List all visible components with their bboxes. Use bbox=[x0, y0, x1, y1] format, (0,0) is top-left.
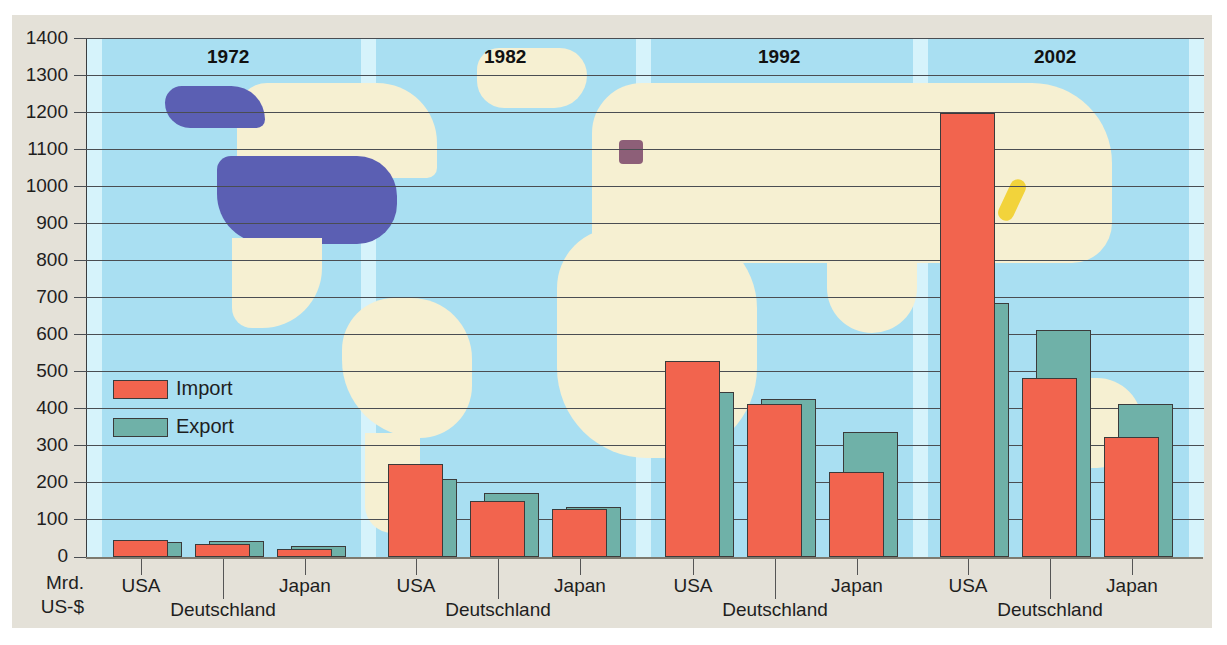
x-tick bbox=[857, 559, 858, 575]
bar-import-1982-japan bbox=[552, 509, 607, 557]
y-axis-unit-line1: Mrd. bbox=[22, 572, 84, 594]
y-tick-label: 700 bbox=[10, 287, 68, 307]
y-tick-label: 1200 bbox=[10, 102, 68, 122]
x-label-deutschland: Deutschland bbox=[445, 599, 551, 621]
x-label-japan: Japan bbox=[554, 575, 606, 597]
y-tick-label: 900 bbox=[10, 213, 68, 233]
legend-import-swatch bbox=[113, 380, 168, 399]
x-label-japan: Japan bbox=[279, 575, 331, 597]
gridline-700 bbox=[74, 297, 1204, 298]
highlight-usa bbox=[217, 156, 397, 244]
y-tick-label: 100 bbox=[10, 509, 68, 529]
y-tick-label: 1000 bbox=[10, 176, 68, 196]
legend-export-swatch bbox=[113, 418, 168, 437]
year-header-1992: 1992 bbox=[758, 46, 800, 68]
x-tick bbox=[223, 559, 224, 599]
bar-import-1992-deutschland bbox=[747, 404, 802, 557]
bar-import-1992-usa bbox=[665, 361, 720, 557]
bar-import-1982-usa bbox=[388, 464, 443, 557]
x-tick bbox=[580, 559, 581, 575]
x-label-deutschland: Deutschland bbox=[722, 599, 828, 621]
bar-import-1972-japan bbox=[277, 549, 332, 557]
highlight-alaska bbox=[165, 86, 265, 128]
gridline-500 bbox=[74, 371, 1204, 372]
y-tick-label: 400 bbox=[10, 398, 68, 418]
gridline-900 bbox=[74, 223, 1204, 224]
y-tick-label: 0 bbox=[10, 546, 68, 566]
legend-export-label: Export bbox=[176, 415, 234, 438]
gridline-800 bbox=[74, 260, 1204, 261]
x-label-deutschland: Deutschland bbox=[170, 599, 276, 621]
y-tick-label: 1400 bbox=[10, 28, 68, 48]
x-label-usa: USA bbox=[673, 575, 712, 597]
year-header-2002: 2002 bbox=[1034, 46, 1076, 68]
bar-import-1982-deutschland bbox=[470, 501, 525, 557]
y-tick-0 bbox=[74, 557, 86, 558]
gridline-1000 bbox=[74, 186, 1204, 187]
highlight-germany bbox=[619, 140, 643, 164]
x-label-usa: USA bbox=[948, 575, 987, 597]
x-tick bbox=[693, 559, 694, 575]
bar-import-2002-usa bbox=[940, 113, 995, 557]
land-india bbox=[827, 253, 917, 333]
legend-import-label: Import bbox=[176, 377, 233, 400]
y-tick-label: 300 bbox=[10, 435, 68, 455]
x-label-deutschland: Deutschland bbox=[997, 599, 1103, 621]
bar-import-1972-deutschland bbox=[195, 544, 250, 557]
bar-import-1992-japan bbox=[829, 472, 884, 557]
x-tick bbox=[305, 559, 306, 575]
gridline-1200 bbox=[74, 112, 1204, 113]
y-tick-label: 600 bbox=[10, 324, 68, 344]
x-tick bbox=[141, 559, 142, 575]
year-header-1972: 1972 bbox=[207, 46, 249, 68]
y-tick-label: 1300 bbox=[10, 65, 68, 85]
gridline-1100 bbox=[74, 149, 1204, 150]
x-label-usa: USA bbox=[396, 575, 435, 597]
bar-import-2002-deutschland bbox=[1022, 378, 1077, 557]
gridline-600 bbox=[74, 334, 1204, 335]
x-tick bbox=[416, 559, 417, 575]
land-central-america bbox=[232, 238, 322, 328]
bar-import-1972-usa bbox=[113, 540, 168, 557]
y-tick-label: 1100 bbox=[10, 139, 68, 159]
y-axis-unit-line2: US-$ bbox=[22, 596, 84, 618]
x-label-japan: Japan bbox=[1106, 575, 1158, 597]
bar-import-2002-japan bbox=[1104, 437, 1159, 557]
x-tick bbox=[968, 559, 969, 575]
y-tick-label: 800 bbox=[10, 250, 68, 270]
y-tick-label: 200 bbox=[10, 472, 68, 492]
gridline-1300 bbox=[74, 75, 1204, 76]
x-axis-baseline bbox=[86, 557, 1203, 559]
x-label-usa: USA bbox=[121, 575, 160, 597]
year-header-1982: 1982 bbox=[484, 46, 526, 68]
y-tick-label: 500 bbox=[10, 361, 68, 381]
x-tick bbox=[1050, 559, 1051, 599]
x-tick bbox=[775, 559, 776, 599]
x-tick bbox=[1132, 559, 1133, 575]
gridline-1400 bbox=[74, 38, 1204, 39]
x-label-japan: Japan bbox=[831, 575, 883, 597]
x-tick bbox=[498, 559, 499, 599]
